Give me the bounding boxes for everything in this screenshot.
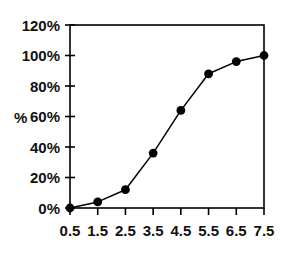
chart-container: 0%20%40%60%80%100%120% 0.51.52.53.54.55.… — [0, 0, 286, 262]
y-tick-label: 0% — [38, 200, 60, 217]
x-tick-label: 3.5 — [143, 222, 164, 239]
data-point — [149, 149, 158, 158]
data-point — [176, 106, 185, 115]
x-tick-label: 0.5 — [60, 222, 81, 239]
data-point — [93, 198, 102, 207]
x-tick-label: 4.5 — [170, 222, 191, 239]
x-tick-label: 1.5 — [87, 222, 108, 239]
data-point — [121, 185, 130, 194]
y-axis-title: % — [14, 109, 27, 126]
y-tick-label: 80% — [30, 78, 60, 95]
data-point — [66, 204, 75, 213]
x-tick-label: 5.5 — [198, 222, 219, 239]
data-point — [204, 69, 213, 78]
data-point — [232, 57, 241, 66]
data-point — [260, 51, 269, 60]
y-tick-label: 120% — [22, 17, 60, 34]
y-tick-label: 100% — [22, 47, 60, 64]
line-chart: 0%20%40%60%80%100%120% 0.51.52.53.54.55.… — [0, 0, 286, 262]
x-tick-label: 7.5 — [254, 222, 275, 239]
y-tick-label: 60% — [30, 108, 60, 125]
y-tick-label: 20% — [30, 169, 60, 186]
x-tick-label: 2.5 — [115, 222, 136, 239]
y-tick-label: 40% — [30, 139, 60, 156]
x-tick-label: 6.5 — [226, 222, 247, 239]
